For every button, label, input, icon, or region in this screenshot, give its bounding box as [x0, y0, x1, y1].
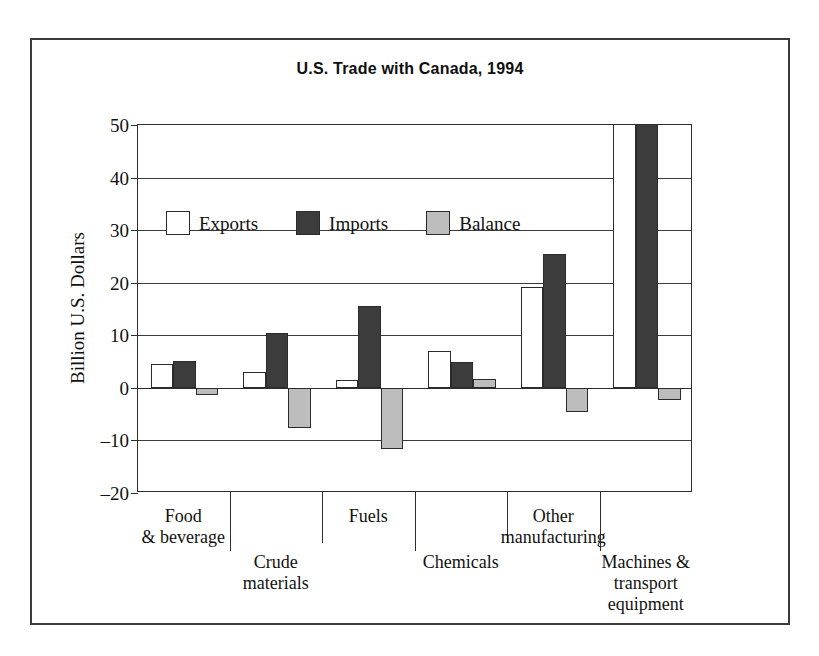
y-tick-label-20: 20 [110, 273, 129, 292]
bar-exports [521, 287, 544, 388]
x-tick-mark [507, 492, 508, 503]
bar-balance [381, 388, 404, 449]
category-label: Othermanufacturing [471, 506, 635, 548]
legend-item-exports: Exports [166, 211, 258, 235]
legend-swatch-balance [426, 211, 450, 235]
bar-imports [451, 362, 474, 388]
y-tick-mark-20 [131, 283, 138, 284]
y-tick-mark-30 [131, 230, 138, 231]
y-tick-label-10: 10 [110, 326, 129, 345]
y-axis-title: Billion U.S. Dollars [67, 232, 89, 384]
figure-frame: U.S. Trade with Canada, 1994 Billion U.S… [30, 38, 790, 625]
y-tick-mark--20 [131, 493, 138, 494]
bar-balance [566, 388, 589, 412]
category-label-line: Crude [194, 552, 358, 573]
bar-exports [151, 364, 174, 388]
category-label: Fuels [286, 506, 450, 527]
y-tick-mark-0 [131, 388, 138, 389]
category-label-line: materials [194, 573, 358, 594]
bar-group [416, 125, 509, 491]
category-label: Crudematerials [194, 552, 358, 594]
bar-group [231, 125, 324, 491]
x-tick-mark [322, 492, 323, 503]
legend-swatch-exports [166, 211, 190, 235]
y-tick-mark-50 [131, 125, 138, 126]
bar-imports [543, 254, 566, 388]
category-label-line: Other [471, 506, 635, 527]
bar-exports [428, 351, 451, 388]
bar-exports [243, 372, 266, 388]
category-separator [415, 503, 416, 551]
y-tick-mark-10 [131, 335, 138, 336]
y-tick-label-0: 0 [120, 378, 130, 397]
legend-swatch-imports [296, 211, 320, 235]
y-tick-label--20: –20 [101, 484, 130, 503]
bar-balance [196, 388, 219, 395]
category-label-line: Food [101, 506, 265, 527]
x-tick-mark [415, 492, 416, 503]
category-label: Chemicals [379, 552, 543, 573]
category-label: Food& beverage [101, 506, 265, 548]
bar-group [138, 125, 231, 491]
legend-label: Balance [459, 214, 520, 233]
category-label: Machines &transportequipment [564, 552, 728, 616]
y-tick-label-50: 50 [110, 116, 129, 135]
category-label-line: equipment [564, 594, 728, 615]
bar-balance [658, 388, 681, 401]
legend-item-imports: Imports [296, 211, 388, 235]
x-tick-mark [600, 492, 601, 503]
category-label-line: transport [564, 573, 728, 594]
y-tick-label-40: 40 [110, 168, 129, 187]
category-label-line: Machines & [564, 552, 728, 573]
x-tick-mark [230, 492, 231, 503]
bar-imports [358, 306, 381, 387]
bar-imports [636, 125, 659, 388]
bar-balance [473, 379, 496, 387]
chart-legend: ExportsImportsBalance [166, 211, 548, 235]
chart-title: U.S. Trade with Canada, 1994 [32, 60, 788, 78]
legend-label: Exports [199, 214, 258, 233]
bar-group [323, 125, 416, 491]
category-label-line: Fuels [286, 506, 450, 527]
category-label-line: & beverage [101, 527, 265, 548]
bar-imports [266, 333, 289, 388]
bar-balance [288, 388, 311, 428]
legend-item-balance: Balance [426, 211, 520, 235]
y-tick-mark-40 [131, 178, 138, 179]
y-tick-label--10: –10 [101, 431, 130, 450]
y-tick-mark--10 [131, 440, 138, 441]
bar-imports [173, 361, 196, 388]
legend-label: Imports [329, 214, 388, 233]
bar-group [508, 125, 601, 491]
y-tick-label-30: 30 [110, 221, 129, 240]
bar-exports [336, 380, 359, 388]
plot-area: 50403020100–10–20 ExportsImportsBalance [137, 124, 692, 492]
category-separator [600, 503, 601, 551]
bar-group [601, 125, 694, 491]
bar-exports [613, 125, 636, 388]
category-separator [230, 503, 231, 551]
category-label-line: manufacturing [471, 527, 635, 548]
category-label-line: Chemicals [379, 552, 543, 573]
